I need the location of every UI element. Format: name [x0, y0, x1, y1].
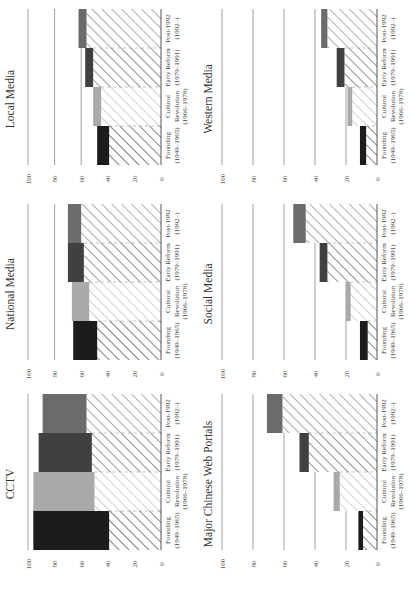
chart-plot: 020406080100 — [200, 1, 405, 197]
bar-solid-cultural — [72, 282, 89, 321]
bar-solid-early-reform — [68, 243, 84, 282]
bar-hatched-early-reform — [92, 433, 161, 472]
bar-solid-founding — [360, 126, 366, 165]
panel-social-media: Social Media 020406080100Founding(1949–1… — [200, 196, 405, 392]
y-tick-label: 0 — [158, 177, 166, 181]
bar-hatched-cultural — [351, 282, 377, 321]
y-tick-label: 0 — [374, 177, 382, 181]
y-tick-label: 40 — [104, 175, 112, 183]
y-tick-label: 80 — [250, 560, 258, 568]
panel-cctv: CCTV 020406080100Founding(1949–1965)Cult… — [2, 386, 207, 582]
bar-solid-cultural — [334, 472, 340, 511]
panel-web-portals: Major Chinese Web Portals 020406080100Fo… — [200, 386, 405, 582]
bar-hatched-early-reform — [344, 48, 377, 87]
y-tick-label: 60 — [78, 370, 86, 378]
y-tick-label: 40 — [104, 370, 112, 378]
bar-hatched-cultural — [89, 282, 161, 321]
y-tick-label: 20 — [131, 370, 139, 378]
y-tick-label: 40 — [104, 560, 112, 568]
y-tick-label: 100 — [25, 368, 33, 379]
chart-figure: CCTV 020406080100Founding(1949–1965)Cult… — [0, 0, 417, 590]
bar-hatched-post-1992 — [87, 394, 161, 433]
bar-hatched-post-1992 — [327, 9, 377, 48]
x-category-label: Post-1992(1992–) — [380, 198, 397, 249]
y-tick-label: 100 — [219, 368, 227, 379]
y-tick-label: 100 — [25, 173, 33, 184]
bar-hatched-early-reform — [327, 243, 377, 282]
bar-solid-post-1992 — [321, 9, 327, 48]
bar-solid-founding — [73, 321, 97, 360]
y-tick-label: 60 — [281, 370, 289, 378]
panel-national-media: National Media 020406080100Founding(1949… — [2, 196, 207, 392]
bar-solid-early-reform — [300, 433, 309, 472]
y-tick-label: 20 — [131, 560, 139, 568]
y-tick-label: 80 — [51, 370, 59, 378]
y-tick-label: 60 — [78, 560, 86, 568]
bar-solid-founding — [33, 511, 109, 550]
x-category-label: Post-1992(1992–) — [164, 3, 181, 54]
y-tick-label: 40 — [312, 370, 320, 378]
panel-western-media: Western Media 020406080100Founding(1949–… — [200, 1, 405, 197]
x-category-label: Post-1992(1992–) — [164, 198, 181, 249]
bar-solid-cultural — [348, 87, 353, 126]
y-tick-label: 20 — [131, 175, 139, 183]
x-category-label: Post-1992(1992–) — [380, 388, 397, 439]
y-tick-label: 0 — [158, 372, 166, 376]
bar-hatched-founding — [109, 126, 161, 165]
bar-hatched-founding — [363, 511, 377, 550]
y-tick-label: 60 — [78, 175, 86, 183]
y-tick-label: 80 — [250, 370, 258, 378]
y-tick-label: 100 — [219, 173, 227, 184]
bar-hatched-early-reform — [309, 433, 377, 472]
y-tick-label: 40 — [312, 560, 320, 568]
bar-hatched-founding — [368, 321, 377, 360]
bar-hatched-cultural — [95, 472, 162, 511]
y-tick-label: 20 — [343, 370, 351, 378]
y-tick-label: 40 — [312, 175, 320, 183]
bar-solid-early-reform — [337, 48, 345, 87]
bar-solid-post-1992 — [293, 204, 305, 243]
y-tick-label: 80 — [51, 175, 59, 183]
bar-hatched-cultural — [101, 87, 161, 126]
bar-hatched-founding — [109, 511, 161, 550]
bar-hatched-post-1992 — [81, 204, 161, 243]
bar-solid-early-reform — [320, 243, 328, 282]
bar-hatched-cultural — [352, 87, 377, 126]
bar-solid-post-1992 — [43, 394, 87, 433]
bar-hatched-post-1992 — [306, 204, 377, 243]
x-category-label: Post-1992(1992–) — [380, 3, 397, 54]
bar-solid-founding — [97, 126, 109, 165]
bar-solid-early-reform — [39, 433, 92, 472]
y-tick-label: 100 — [219, 558, 227, 569]
bar-solid-cultural — [93, 87, 101, 126]
bar-solid-post-1992 — [267, 394, 283, 433]
bar-solid-early-reform — [85, 48, 93, 87]
bar-hatched-early-reform — [93, 48, 161, 87]
y-tick-label: 0 — [158, 562, 166, 566]
y-tick-label: 60 — [281, 560, 289, 568]
y-tick-label: 0 — [374, 372, 382, 376]
bar-solid-cultural — [346, 282, 351, 321]
y-tick-label: 0 — [374, 562, 382, 566]
bar-solid-post-1992 — [68, 204, 81, 243]
chart-plot: 020406080100 — [200, 386, 405, 582]
bar-solid-founding — [358, 511, 363, 550]
bar-hatched-cultural — [340, 472, 377, 511]
bar-hatched-post-1992 — [87, 9, 161, 48]
y-tick-label: 20 — [343, 175, 351, 183]
bar-solid-post-1992 — [79, 9, 87, 48]
x-category-label: Post-1992(1992–) — [164, 388, 181, 439]
y-tick-label: 20 — [343, 560, 351, 568]
bar-solid-founding — [360, 321, 368, 360]
y-tick-label: 80 — [250, 175, 258, 183]
y-tick-label: 60 — [281, 175, 289, 183]
bar-hatched-post-1992 — [282, 394, 377, 433]
bar-hatched-founding — [97, 321, 161, 360]
bar-hatched-early-reform — [84, 243, 161, 282]
bar-solid-cultural — [33, 472, 94, 511]
y-tick-label: 80 — [51, 560, 59, 568]
bar-hatched-founding — [366, 126, 377, 165]
panel-local-media: Local Media 020406080100Founding(1949–19… — [2, 1, 207, 197]
chart-plot: 020406080100 — [200, 196, 405, 392]
y-tick-label: 100 — [25, 558, 33, 569]
